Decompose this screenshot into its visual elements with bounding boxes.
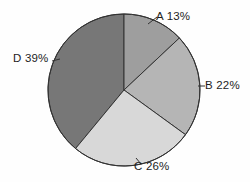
pie-label-a: A 13% bbox=[156, 10, 190, 22]
pie-label-c: C 26% bbox=[134, 160, 170, 172]
pie-label-b: B 22% bbox=[205, 79, 240, 91]
pie-chart: A 13% B 22% C 26% D 39% bbox=[0, 0, 250, 182]
pie-chart-svg bbox=[0, 0, 250, 182]
pie-label-d: D 39% bbox=[13, 52, 49, 64]
